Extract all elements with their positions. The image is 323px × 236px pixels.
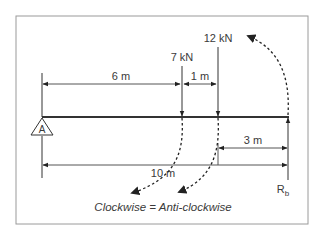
dimension-3m-label: 3 m [244,134,262,146]
force-7kn-label: 7 kN [171,51,194,63]
diagram-frame [16,16,308,224]
beam-diagram: A 7 kN 12 kN Rb 6 m 1 m 3 m 10 m Clo [0,0,323,236]
support-a-label: A [39,124,46,135]
dimension-1m-label: 1 m [191,70,209,82]
dimension-6m-label: 6 m [112,70,130,82]
dimension-10m-label: 10 m [151,167,175,179]
force-12kn-label: 12 kN [204,32,233,44]
equilibrium-caption: Clockwise = Anti-clockwise [94,201,231,213]
